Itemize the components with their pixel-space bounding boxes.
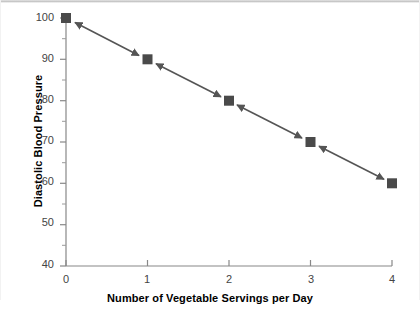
- line-segment-1-2: [156, 64, 221, 97]
- data-point-1: [143, 54, 153, 64]
- data-point-3: [306, 137, 316, 147]
- data-markers: [61, 13, 397, 188]
- data-point-2: [224, 96, 234, 106]
- line-segment-2-3: [237, 105, 302, 138]
- y-major-ticks: [60, 18, 66, 266]
- x-major-ticks: [66, 260, 392, 266]
- data-point-0: [61, 13, 71, 23]
- line-segment-3-4: [319, 146, 384, 179]
- chart-figure: 100 90 80 70 60 50 40 0 1 2 3 4 Number o…: [0, 0, 420, 324]
- data-point-4: [387, 178, 397, 188]
- plot-area: [0, 0, 420, 324]
- line-segment-0-1: [75, 23, 139, 56]
